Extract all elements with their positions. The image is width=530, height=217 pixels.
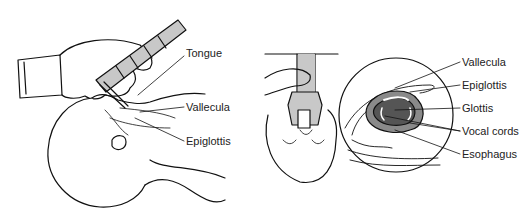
label-vocal-cords: Vocal cords (462, 125, 519, 137)
label-tongue: Tongue (186, 47, 222, 59)
label-epiglottis-top: Epiglottis (462, 79, 507, 91)
label-vallecula-side: Vallecula (186, 101, 230, 113)
label-esophagus: Esophagus (462, 148, 517, 160)
label-glottis: Glottis (462, 102, 493, 114)
top-view-illustration (265, 54, 338, 182)
label-vallecula-top: Vallecula (462, 56, 506, 68)
intubation-diagram (0, 0, 530, 217)
label-epiglottis-side: Epiglottis (186, 135, 231, 147)
laryngoscope-handle (96, 20, 186, 92)
magnified-larynx-view (339, 58, 460, 172)
